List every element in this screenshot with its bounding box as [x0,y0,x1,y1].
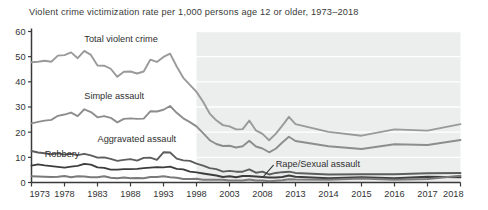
series-annotation-label: Robbery [45,149,80,159]
x-tick-label: 2013 [285,189,305,199]
x-tick-label: 1993 [153,189,173,199]
x-tick-label: 1983 [87,189,107,199]
x-axis-tick-labels: 1973197819831988199319982003200820132014… [30,189,464,199]
line-chart-plot: 0102030405060 19731978198319881993199820… [0,0,488,210]
y-tick-label: 30 [15,102,25,112]
y-tick-label: 0 [20,178,25,188]
x-tick-label: 1973 [30,189,50,199]
series-annotation-label: Rape/Sexual assault [276,159,361,169]
x-tick-label: 2018 [443,189,463,199]
series-annotation-label: Simple assault [84,91,144,101]
y-tick-label: 10 [15,153,25,163]
chart-figure: Violent crime victimization rate per 1,0… [0,0,488,210]
x-tick-label: 2014 [318,189,338,199]
x-tick-label: 1978 [54,189,74,199]
x-tick-label: 2003 [219,189,239,199]
y-tick-label: 20 [15,128,25,138]
x-tick-label: 2015 [351,189,371,199]
x-tick-label: 2017 [417,189,437,199]
x-tick-label: 1998 [186,189,206,199]
y-tick-label: 60 [15,27,25,37]
y-tick-label: 40 [15,77,25,87]
x-tick-label: 2008 [252,189,272,199]
x-tick-label: 2016 [384,189,404,199]
x-tick-label: 1988 [120,189,140,199]
y-axis-tick-labels: 0102030405060 [15,27,25,188]
series-annotation-label: Aggravated assault [98,134,177,144]
y-tick-label: 50 [15,52,25,62]
series-annotation-label: Total violent crime [84,34,158,44]
